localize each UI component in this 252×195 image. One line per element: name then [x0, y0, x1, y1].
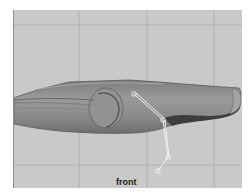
viewport-scene — [14, 10, 242, 188]
viewport-front[interactable]: front — [13, 10, 242, 188]
leg-mesh — [14, 80, 241, 133]
camera-view-label: front — [116, 177, 137, 187]
